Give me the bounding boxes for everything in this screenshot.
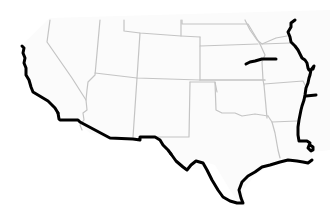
land-area — [21, 10, 330, 206]
river-branch-east — [306, 95, 316, 96]
us-map — [0, 0, 335, 215]
